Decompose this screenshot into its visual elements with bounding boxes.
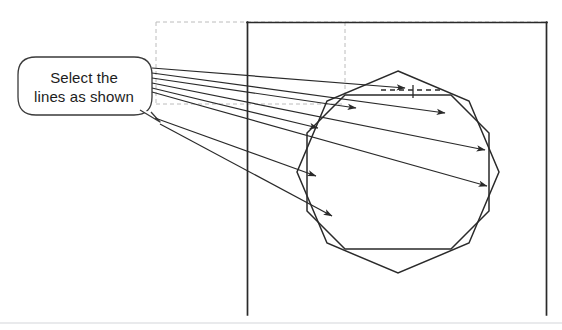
- figure-canvas: Select the lines as shown: [0, 0, 562, 330]
- octagon-axis-aligned: [307, 95, 489, 249]
- drawing-frame-group: [247, 22, 547, 315]
- octagon-group: [297, 71, 499, 273]
- leader-line-5: [152, 88, 318, 128]
- dashed-guide-group: [156, 22, 547, 104]
- leader-line-7: [155, 118, 316, 176]
- leader-line-8: [160, 124, 332, 216]
- bottom-separator-rule: [0, 322, 562, 324]
- octagon-rotated: [297, 71, 499, 273]
- leader-line-4: [152, 83, 485, 150]
- callout-balloon[interactable]: [18, 57, 152, 115]
- callout-tail: [140, 110, 160, 122]
- leader-line-6: [152, 92, 487, 186]
- callout-balloon-group[interactable]: [18, 57, 160, 122]
- technical-drawing: [0, 0, 562, 330]
